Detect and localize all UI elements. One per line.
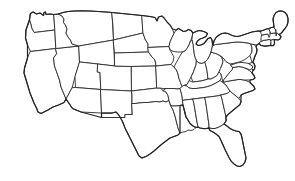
us-states-map: Washington Oregon California Nevada Idah… <box>0 0 295 181</box>
state-utah: Utah <box>75 62 101 90</box>
state-colorado: Colorado <box>98 64 132 91</box>
state-kansas: Kansas <box>132 66 158 91</box>
us-outline-map-figure: Washington Oregon California Nevada Idah… <box>0 0 295 181</box>
